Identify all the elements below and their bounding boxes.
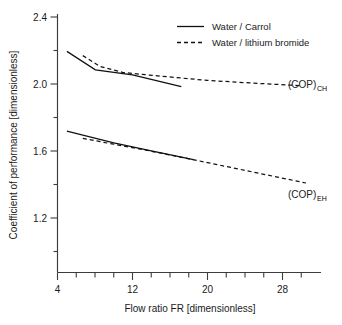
series-water-libr-cop-ch <box>83 56 301 86</box>
x-axis-title: Flow ratio FR [dimensionless] <box>124 303 255 314</box>
x-tick-label-28: 28 <box>277 284 289 295</box>
annotation-cop-ch: (COP) CH <box>288 79 327 92</box>
x-tick-label-20: 20 <box>202 284 214 295</box>
series-water-libr-cop-eh <box>83 138 306 183</box>
y-tick-label-1.2: 1.2 <box>33 213 47 224</box>
legend-label-water-lithium-bromide: Water / lithium bromide <box>212 37 309 48</box>
y-axis-title: Coefficient of performance [dimensionles… <box>8 50 19 239</box>
annotation-cop-eh: (COP) EH <box>288 189 327 202</box>
cop-ch-base: (COP) <box>288 79 316 90</box>
y-tick-label-2.4: 2.4 <box>33 12 47 23</box>
x-tick-label-4: 4 <box>55 284 61 295</box>
line-chart: 2.4 2.0 1.6 1.2 4 12 20 28 Flow ratio FR… <box>0 0 342 325</box>
y-tick-label-2.0: 2.0 <box>33 79 47 90</box>
cop-ch-subscript: CH <box>317 85 327 92</box>
legend-label-water-carrol: Water / Carrol <box>212 21 271 32</box>
cop-eh-base: (COP) <box>288 189 316 200</box>
chart-legend: Water / Carrol Water / lithium bromide <box>177 21 309 48</box>
x-minor-ticks <box>76 273 301 278</box>
chart-figure: 2.4 2.0 1.6 1.2 4 12 20 28 Flow ratio FR… <box>0 0 342 325</box>
cop-eh-subscript: EH <box>317 195 327 202</box>
x-tick-label-12: 12 <box>127 284 139 295</box>
y-tick-label-1.6: 1.6 <box>33 146 47 157</box>
